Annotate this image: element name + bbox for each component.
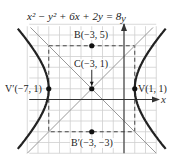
- point-label-c: C(−3, 1): [73, 59, 109, 69]
- y-axis-label: y: [121, 13, 126, 24]
- point-label-bprime: B′(−3, −3): [70, 138, 114, 148]
- point-label-v: V(1, 1): [137, 84, 168, 94]
- equation-title: x² − y² + 6x + 2y = 8: [27, 11, 121, 22]
- point-label-b: B(−3, 5): [73, 30, 109, 40]
- point-label-vprime: V′(−7, 1): [4, 84, 43, 94]
- x-axis-label: x: [161, 94, 166, 105]
